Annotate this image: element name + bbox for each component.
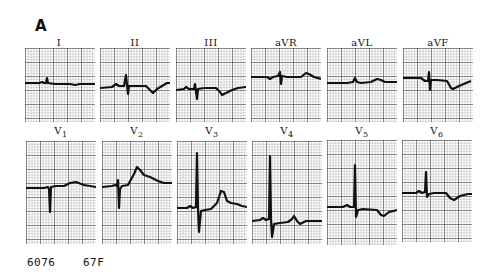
figure-panel-label: A <box>35 18 47 34</box>
lead-name: V <box>54 125 62 136</box>
ecg-trace-lead-iii <box>176 48 246 122</box>
lead-subscript: 4 <box>288 130 294 139</box>
lead-name: V <box>430 125 438 136</box>
lead-label-v3: V3 <box>177 125 247 140</box>
ecg-panel-lead-v4 <box>252 141 322 244</box>
lead-label-v1: V1 <box>26 125 96 140</box>
ecg-panel-lead-v1 <box>26 141 96 244</box>
ecg-panel-lead-v2 <box>102 141 172 244</box>
lead-subscript: 6 <box>438 130 444 139</box>
ecg-panel-lead-i <box>25 48 95 122</box>
lead-subscript: 5 <box>363 130 369 139</box>
lead-label-iii: III <box>176 37 246 48</box>
lead-label-v4: V4 <box>252 125 322 140</box>
ecg-trace-lead-avf <box>403 48 473 122</box>
lead-label-avf: aVF <box>403 37 473 48</box>
lead-name: V <box>130 125 138 136</box>
ecg-trace-lead-i <box>25 48 95 122</box>
lead-name: V <box>355 125 363 136</box>
lead-label-i: I <box>24 37 94 48</box>
ecg-trace-lead-v6 <box>402 140 472 242</box>
ecg-panel-lead-v3 <box>177 141 247 244</box>
lead-subscript: 2 <box>138 130 144 139</box>
ecg-trace-lead-ii <box>100 48 170 122</box>
ecg-trace-lead-v2 <box>102 141 172 244</box>
ecg-panel-lead-avl <box>327 48 397 122</box>
patient-age-sex: 67F <box>83 257 104 269</box>
lead-label-avr: aVR <box>251 37 321 48</box>
ecg-trace-lead-avr <box>251 48 321 122</box>
ecg-panel-lead-v5 <box>327 140 397 245</box>
lead-subscript: 3 <box>213 130 219 139</box>
ecg-trace-lead-avl <box>327 48 397 122</box>
lead-label-v5: V5 <box>327 125 397 140</box>
lead-subscript: 1 <box>62 130 68 139</box>
lead-label-v2: V2 <box>102 125 172 140</box>
lead-label-v6: V6 <box>402 125 472 140</box>
lead-name: V <box>205 125 213 136</box>
lead-label-ii: II <box>100 37 170 48</box>
ecg-panel-lead-ii <box>100 48 170 122</box>
ecg-panel-lead-avr <box>251 48 321 122</box>
ecg-panel-lead-iii <box>176 48 246 122</box>
ecg-trace-lead-v1 <box>26 141 96 244</box>
record-id-number: 6076 <box>27 257 56 269</box>
ecg-panel-lead-v6 <box>402 140 472 242</box>
lead-name: V <box>280 125 288 136</box>
lead-label-avl: aVL <box>327 37 397 48</box>
ecg-trace-lead-v4 <box>252 141 322 244</box>
ecg-trace-lead-v3 <box>177 141 247 244</box>
ecg-trace-lead-v5 <box>327 140 397 245</box>
ecg-panel-lead-avf <box>403 48 473 122</box>
